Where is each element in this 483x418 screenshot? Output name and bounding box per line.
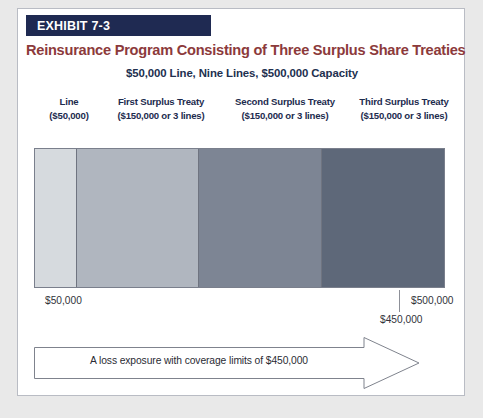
bar-segment-second-surplus-treaty <box>198 149 321 287</box>
bar-segment-first-surplus-treaty <box>76 149 199 287</box>
column-header-line: Line ($50,000) <box>34 95 104 122</box>
axis-label-max: $500,000 <box>411 295 454 306</box>
column-header-line-name: Line <box>60 96 79 107</box>
column-header-second-surplus-treaty-detail: ($150,000 or 3 lines) <box>220 109 350 123</box>
column-header-second-surplus-treaty: Second Surplus Treaty ($150,000 or 3 lin… <box>220 95 350 122</box>
column-header-first-surplus-treaty: First Surplus Treaty ($150,000 or 3 line… <box>96 95 226 122</box>
axis-label-mid: $450,000 <box>380 314 423 325</box>
exhibit-number-label: EXHIBIT 7-3 <box>26 19 110 33</box>
column-header-first-surplus-treaty-name: First Surplus Treaty <box>118 96 204 107</box>
column-header-third-surplus-treaty-detail: ($150,000 or 3 lines) <box>340 109 468 123</box>
column-header-row: Line ($50,000) First Surplus Treaty ($15… <box>26 95 458 129</box>
loss-exposure-arrow-label: A loss exposure with coverage limits of … <box>34 355 364 366</box>
axis-tick-450000 <box>399 290 400 312</box>
column-header-first-surplus-treaty-detail: ($150,000 or 3 lines) <box>96 109 226 123</box>
exhibit-subtitle: $50,000 Line, Nine Lines, $500,000 Capac… <box>26 67 458 79</box>
column-header-third-surplus-treaty-name: Third Surplus Treaty <box>359 96 448 107</box>
bar-segment-third-surplus-treaty <box>321 149 444 287</box>
column-header-line-detail: ($50,000) <box>34 109 104 123</box>
axis-label-min: $50,000 <box>45 295 82 306</box>
column-header-third-surplus-treaty: Third Surplus Treaty ($150,000 or 3 line… <box>340 95 468 122</box>
bar-segment-line <box>35 149 76 287</box>
column-header-second-surplus-treaty-name: Second Surplus Treaty <box>235 96 335 107</box>
exhibit-title: Reinsurance Program Consisting of Three … <box>26 42 458 58</box>
exhibit-banner: EXHIBIT 7-3 <box>26 15 211 36</box>
treaty-capacity-bar <box>34 148 445 288</box>
exhibit-card: EXHIBIT 7-3 Reinsurance Program Consisti… <box>17 8 465 396</box>
